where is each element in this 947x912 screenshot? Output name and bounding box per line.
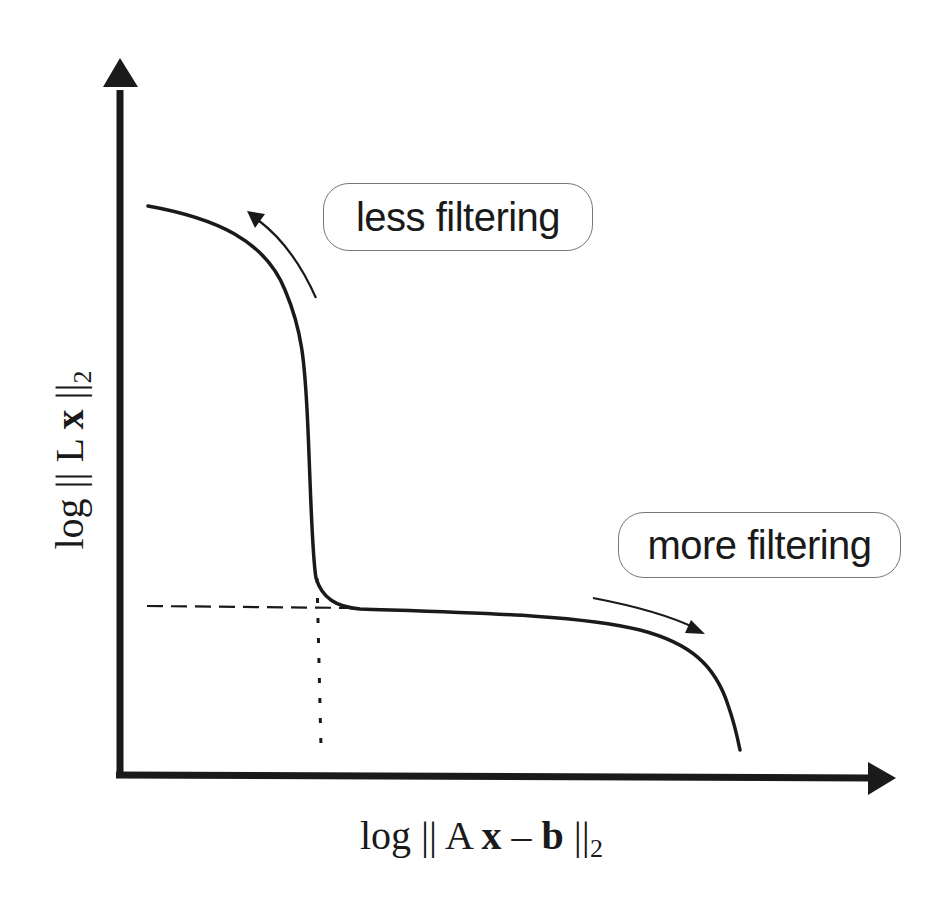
x-axis-line bbox=[116, 775, 870, 778]
l-curve-diagram bbox=[0, 0, 947, 912]
l-curve-line bbox=[148, 206, 740, 750]
x-label-suffix: || bbox=[564, 813, 590, 858]
y-axis-arrowhead-icon bbox=[103, 58, 138, 87]
x-label-bold-b: b bbox=[542, 813, 564, 858]
less-filtering-arrowhead-icon bbox=[247, 211, 265, 228]
y-label-prefix: log || L bbox=[47, 429, 92, 549]
x-label-bold-x: x bbox=[482, 813, 502, 858]
corner-horizontal-dashed-line bbox=[147, 606, 355, 608]
more-filtering-label: more filtering bbox=[618, 512, 901, 578]
y-label-bold-x: x bbox=[47, 409, 92, 429]
corner-vertical-dotted-line bbox=[317, 578, 321, 748]
less-filtering-text: less filtering bbox=[356, 195, 560, 240]
x-axis-arrowhead-icon bbox=[868, 762, 896, 795]
y-axis-label: log || L x ||2 bbox=[46, 370, 98, 549]
x-label-minus: – bbox=[502, 813, 542, 858]
x-axis-label: log || A x – b ||2 bbox=[360, 812, 603, 864]
x-label-prefix: log || A bbox=[360, 813, 482, 858]
more-filtering-text: more filtering bbox=[647, 523, 871, 568]
x-label-subscript: 2 bbox=[590, 834, 603, 863]
y-label-suffix: || bbox=[47, 383, 92, 409]
y-label-subscript: 2 bbox=[68, 370, 97, 383]
more-filtering-arrowhead-icon bbox=[685, 620, 705, 634]
less-filtering-label: less filtering bbox=[323, 183, 593, 251]
